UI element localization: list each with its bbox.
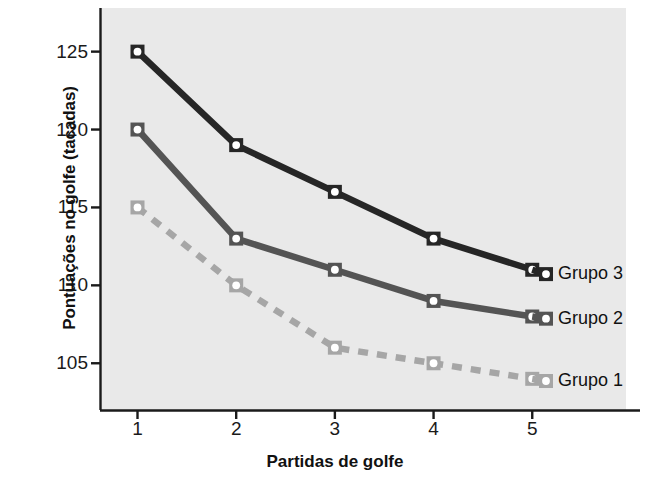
legend-marker-center xyxy=(542,270,550,278)
data-point-marker-center xyxy=(430,235,438,243)
data-point-marker-center xyxy=(232,235,240,243)
legend-marker-center xyxy=(542,315,550,323)
x-tick-label: 5 xyxy=(512,418,552,440)
y-axis-ticks xyxy=(91,52,100,364)
legend-label-1: Grupo 3 xyxy=(558,263,623,284)
data-point-marker-center xyxy=(134,204,142,212)
data-point-marker-center xyxy=(232,281,240,289)
data-point-marker-center xyxy=(134,48,142,56)
data-point-marker-center xyxy=(331,344,339,352)
data-point-marker-center xyxy=(232,141,240,149)
data-point-marker-center xyxy=(430,297,438,305)
data-point-marker-center xyxy=(331,266,339,274)
data-point-marker-center xyxy=(430,359,438,367)
x-tick-label: 2 xyxy=(216,418,256,440)
plot-canvas xyxy=(0,0,649,485)
x-axis-title: Partidas de golfe xyxy=(100,452,570,472)
data-point-marker-center xyxy=(331,188,339,196)
legend-marker-center xyxy=(542,377,550,385)
y-axis-title: Pontuações no golfe (tacadas) xyxy=(60,0,80,418)
legend-label-3: Grupo 1 xyxy=(558,370,623,391)
x-tick-label: 4 xyxy=(414,418,454,440)
legend-label-2: Grupo 2 xyxy=(558,308,623,329)
x-tick-label: 1 xyxy=(118,418,158,440)
x-tick-label: 3 xyxy=(315,418,355,440)
data-point-marker-center xyxy=(134,126,142,134)
golf-scores-line-chart: 105110115120125 12345 Pontuações no golf… xyxy=(0,0,649,485)
